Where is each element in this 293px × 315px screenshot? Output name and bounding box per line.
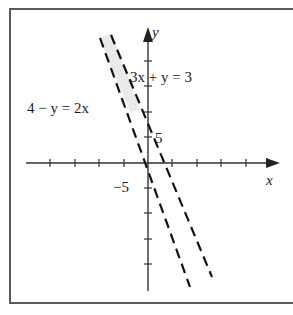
tick-label-neg5: −5 xyxy=(113,179,129,195)
x-axis-arrow-icon xyxy=(266,158,280,168)
chart-plot: y x 5 −5 3x + y = 3 4 − y = 2x xyxy=(0,0,293,315)
equation-label-1: 3x + y = 3 xyxy=(130,69,192,85)
tick-label-5: 5 xyxy=(155,130,163,146)
y-axis-label: y xyxy=(150,24,159,40)
x-axis-label: x xyxy=(265,172,273,188)
equation-label-2: 4 − y = 2x xyxy=(27,100,89,116)
